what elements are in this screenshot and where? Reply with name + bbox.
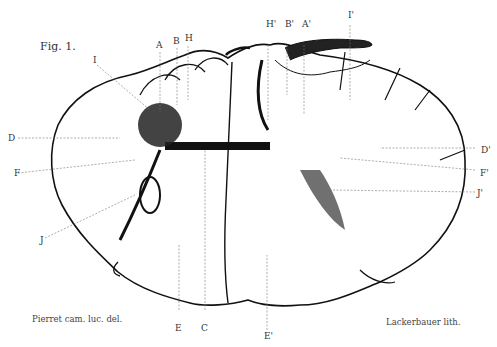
label-A: A	[156, 40, 163, 50]
figure-title: Fig. 1.	[40, 40, 76, 53]
label-F-prime: F'	[480, 168, 489, 178]
label-I-prime: I'	[348, 10, 354, 20]
label-C: C	[201, 323, 208, 333]
label-H: H	[185, 33, 193, 43]
label-F: F	[14, 168, 20, 178]
label-E-prime: E'	[264, 331, 273, 341]
label-D: D	[8, 133, 15, 143]
label-B: B	[173, 36, 180, 46]
label-J: J	[40, 235, 44, 245]
label-E: E	[175, 323, 182, 333]
credit-lithographer: Lackerbauer lith.	[386, 317, 461, 327]
anatomical-plate: Fig. 1. A B H I D F J E C H' B' A' I' D'…	[0, 0, 497, 347]
credit-draftsman: Pierret cam. luc. del.	[32, 314, 122, 324]
label-B-prime: B'	[285, 19, 294, 29]
label-H-prime: H'	[266, 19, 276, 29]
label-J-prime: J'	[477, 188, 483, 198]
label-A-prime: A'	[302, 19, 311, 29]
label-I: I	[93, 55, 97, 65]
label-D-prime: D'	[481, 145, 491, 155]
